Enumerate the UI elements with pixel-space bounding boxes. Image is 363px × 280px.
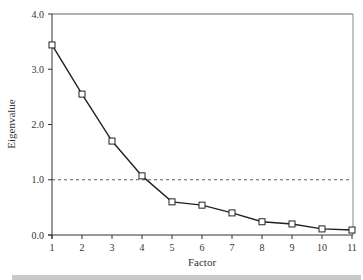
- x-tick-label: 9: [290, 242, 295, 253]
- bottom-divider-bar: [12, 275, 361, 280]
- x-tick-label: 6: [200, 242, 205, 253]
- data-point-marker: [109, 138, 115, 144]
- x-axis-title: Factor: [188, 256, 216, 268]
- data-point-marker: [349, 227, 355, 233]
- y-tick-label: 0.0: [32, 230, 45, 241]
- data-point-marker: [319, 226, 325, 232]
- data-point-marker: [169, 199, 175, 205]
- y-tick-label: 4.0: [32, 9, 45, 20]
- y-axis-title: Eigenvalue: [5, 99, 17, 149]
- x-tick-label: 1: [50, 242, 55, 253]
- data-point-marker: [259, 219, 265, 225]
- data-point-marker: [289, 221, 295, 227]
- series-markers: [49, 42, 355, 233]
- x-tick-label: 5: [170, 242, 175, 253]
- x-tick-label: 11: [347, 242, 357, 253]
- y-tick-label: 3.0: [32, 64, 45, 75]
- x-tick-label: 2: [80, 242, 85, 253]
- data-point-marker: [199, 202, 205, 208]
- data-point-marker: [49, 42, 55, 48]
- data-point-marker: [139, 173, 145, 179]
- y-tick-label: 1.0: [32, 174, 45, 185]
- x-axis: 1234567891011: [50, 235, 357, 253]
- data-point-marker: [79, 91, 85, 97]
- x-tick-label: 3: [110, 242, 115, 253]
- x-tick-label: 4: [140, 242, 145, 253]
- data-point-marker: [229, 210, 235, 216]
- scree-plot: 0.01.02.03.04.0 1234567891011 Factor Eig…: [0, 0, 363, 280]
- x-tick-label: 7: [230, 242, 235, 253]
- x-tick-label: 8: [260, 242, 265, 253]
- x-tick-label: 10: [317, 242, 327, 253]
- y-tick-label: 2.0: [32, 119, 45, 130]
